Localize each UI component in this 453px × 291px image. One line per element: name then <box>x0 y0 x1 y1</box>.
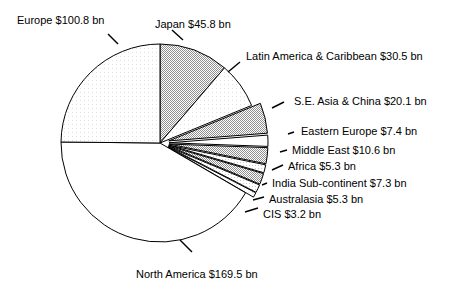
pie-slice-label: Eastern Europe $7.4 bn <box>301 125 417 138</box>
leader-line <box>172 30 183 40</box>
leader-line <box>272 102 284 108</box>
pie-slice-label: Middle East $10.6 bn <box>292 144 395 157</box>
pie-slice-label: S.E. Asia & China $20.1 bn <box>294 95 427 108</box>
pie-slice[interactable] <box>61 44 160 143</box>
leader-line <box>180 240 192 252</box>
pie-slice-label: Japan $45.8 bn <box>155 18 231 31</box>
leader-line <box>245 208 258 212</box>
pie-slice-label: Africa $5.3 bn <box>288 160 356 173</box>
leader-line <box>288 132 294 134</box>
pie-slice-label: Australasia $5.3 bn <box>269 193 363 206</box>
pie-slice-label: India Sub-continent $7.3 bn <box>272 177 407 190</box>
pie-slice-label: North America $169.5 bn <box>136 268 258 281</box>
pie-slice-label: Latin America & Caribbean $30.5 bn <box>246 50 423 63</box>
leader-line <box>253 197 264 200</box>
pie-chart-figure: Japan $45.8 bnLatin America & Caribbean … <box>0 0 453 291</box>
leader-line <box>108 34 118 44</box>
pie-slices <box>61 44 268 242</box>
leader-line <box>272 165 283 170</box>
leader-line <box>280 150 287 152</box>
leader-line <box>228 62 240 72</box>
leader-line <box>262 183 267 185</box>
pie-slice-label: CIS $3.2 bn <box>263 208 321 221</box>
pie-slice-label: Europe $100.8 bn <box>17 14 104 27</box>
